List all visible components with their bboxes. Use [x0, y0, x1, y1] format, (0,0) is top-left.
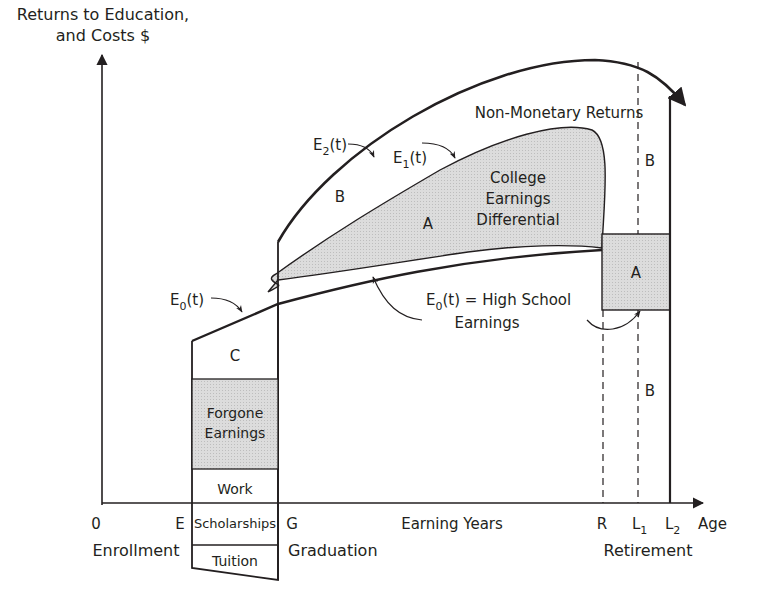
x-tick-retirement: R	[597, 515, 607, 533]
x-tick-graduation: G	[286, 515, 298, 533]
e1-label: E1(t)	[393, 149, 427, 171]
retirement-caption: Retirement	[604, 541, 693, 560]
x-tick-l1: L1	[632, 515, 647, 537]
forgone-earnings-line2: Earnings	[205, 425, 266, 441]
enrollment-caption: Enrollment	[93, 541, 180, 560]
y-axis-label-line2: and Costs $	[56, 26, 150, 45]
earning-years-caption: Earning Years	[401, 515, 503, 533]
x-tick-enrollment: E	[175, 515, 184, 533]
college-differential-line3: Differential	[476, 211, 559, 229]
e0-definition-label: E0(t) = High School	[426, 291, 571, 313]
x-tick-origin: 0	[91, 515, 101, 533]
scholarships-label: Scholarships	[194, 516, 276, 531]
forgone-earnings-region	[192, 379, 278, 469]
non-monetary-returns-label: Non-Monetary Returns	[475, 104, 644, 122]
y-axis-label-line1: Returns to Education,	[17, 5, 189, 24]
cost-stack	[192, 304, 278, 580]
region-b-upper-label: B	[335, 188, 345, 206]
college-differential-line2: Earnings	[485, 190, 550, 208]
x-axis-age-label: Age	[698, 515, 727, 533]
e0-definition-label-line2: Earnings	[454, 314, 519, 332]
region-b-right-lower-label: B	[645, 382, 655, 400]
e0-pointer-arrow	[211, 298, 242, 312]
e0-def-pointer-arrow-left	[373, 277, 422, 320]
graduation-caption: Graduation	[288, 541, 378, 560]
forgone-earnings-line1: Forgone	[207, 405, 264, 421]
returns-to-education-diagram: Returns to Education, and Costs $ E2(t) …	[0, 0, 763, 605]
region-b-right-upper-label: B	[645, 152, 655, 170]
e2-label: E2(t)	[313, 136, 347, 158]
e0-label: E0(t)	[170, 291, 204, 313]
tuition-label: Tuition	[211, 553, 258, 569]
region-c-label: C	[230, 347, 240, 365]
work-label: Work	[217, 481, 253, 497]
e0-def-pointer-arrow-right	[587, 311, 640, 329]
region-a-retirement-label: A	[631, 264, 642, 282]
college-differential-line1: College	[490, 169, 546, 187]
region-a-main-label: A	[423, 215, 434, 233]
x-tick-l2: L2	[665, 515, 680, 537]
